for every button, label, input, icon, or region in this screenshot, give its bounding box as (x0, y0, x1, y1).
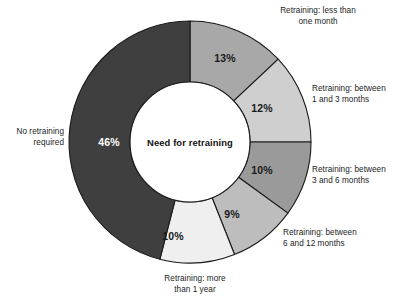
slice-value-label: 10% (251, 164, 272, 176)
slice-value-label: 12% (251, 102, 272, 114)
slice-value-label: 9% (224, 208, 239, 220)
slice-value-label: 13% (214, 52, 235, 64)
slice-callout-label: No retraining required (2, 127, 64, 148)
donut-chart-svg (0, 0, 395, 301)
slice-callout-label: Retraining: between 3 and 6 months (312, 165, 394, 186)
slice-callout-label: Retraining: less than one month (243, 6, 393, 27)
slice-value-label: 10% (162, 230, 183, 242)
slice-value-label: 46% (98, 136, 119, 148)
donut-chart: Need for retraining 13%12%10%9%10%46% Re… (0, 0, 395, 301)
slice-callout-label: Retraining: between 1 and 3 months (312, 84, 394, 105)
slice-callout-label: Retraining: more than 1 year (140, 274, 250, 295)
slice-callout-label: Retraining: between 6 and 12 months (283, 228, 393, 249)
donut-center-label: Need for retraining (147, 137, 233, 148)
